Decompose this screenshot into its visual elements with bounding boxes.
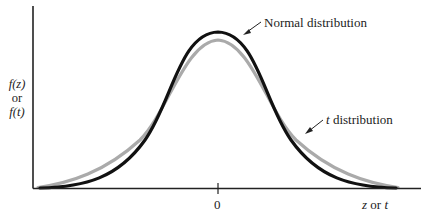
x-label-t: t [384,197,388,212]
chart-canvas [0,0,429,218]
arrow-normal-icon [243,22,261,35]
y-label-ft: f(t) [4,105,30,119]
arrow-t-icon [305,120,323,134]
y-label-or: or [4,91,30,105]
annotation-t-distribution: t distribution [326,113,393,126]
annotation-normal-distribution: Normal distribution [264,16,367,29]
x-label-or: or [367,197,384,212]
annotation-t-text: distribution [330,112,393,127]
y-axis-label: f(z) or f(t) [4,77,30,119]
normal-distribution-curve [40,32,396,188]
x-tick-label-zero: 0 [214,198,221,211]
y-label-fz: f(z) [4,77,30,91]
x-axis-label: z or t [362,198,388,211]
